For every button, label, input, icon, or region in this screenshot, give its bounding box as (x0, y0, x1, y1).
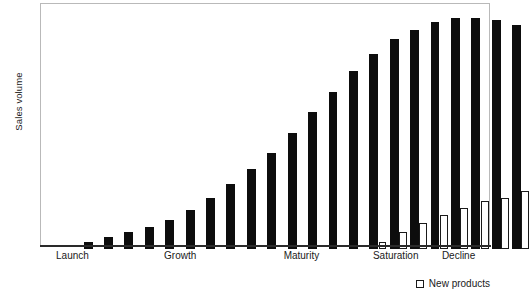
bar-sales-volume (267, 153, 276, 249)
stage-label-growth: Growth (164, 250, 196, 261)
bar-group (492, 8, 509, 249)
bar-sales-volume (369, 54, 378, 249)
bar-sales-volume (431, 22, 440, 249)
bar-group (431, 8, 448, 249)
bar-sales-volume (104, 237, 113, 249)
x-axis-line (40, 245, 491, 247)
bar-group (124, 8, 141, 249)
bar-sales-volume (186, 210, 195, 249)
legend-swatch-new-products-icon (416, 280, 424, 288)
bar-group (410, 8, 427, 249)
bar-new-products (460, 208, 468, 249)
bar-sales-volume (492, 20, 501, 249)
stage-label-maturity: Maturity (284, 250, 320, 261)
bar-group (247, 8, 264, 249)
bar-sales-volume (226, 184, 235, 249)
bar-group (165, 8, 182, 249)
bar-group (349, 8, 366, 249)
x-axis-stage-labels: LaunchGrowthMaturitySaturationDecline (0, 250, 499, 268)
bar-new-products (440, 215, 448, 249)
bar-group (288, 8, 305, 249)
bar-sales-volume (410, 30, 419, 249)
bar-group (512, 8, 529, 249)
bar-sales-volume (390, 39, 399, 249)
bar-group (145, 8, 162, 249)
bar-new-products (481, 201, 489, 249)
bar-group (451, 8, 468, 249)
legend-label-new-products: New products (429, 278, 490, 289)
bar-sales-volume (308, 112, 317, 249)
bar-new-products (501, 198, 509, 249)
bar-sales-volume (329, 92, 338, 249)
chart-legend: New products (416, 278, 490, 289)
bar-group (206, 8, 223, 249)
bar-group (226, 8, 243, 249)
bar-group (84, 8, 101, 249)
bar-sales-volume (349, 71, 358, 249)
bar-group (471, 8, 488, 249)
plot-area (40, 3, 490, 246)
bar-group (390, 8, 407, 249)
bar-group (104, 8, 121, 249)
bar-series-layer (82, 8, 531, 249)
bar-sales-volume (451, 18, 460, 249)
bar-group (308, 8, 325, 249)
stage-label-decline: Decline (442, 250, 475, 261)
bar-group (329, 8, 346, 249)
y-axis-title: Sales volume (13, 54, 24, 150)
bar-group (369, 8, 386, 249)
bar-sales-volume (247, 169, 256, 249)
stage-label-saturation: Saturation (373, 250, 419, 261)
bar-sales-volume (471, 18, 480, 249)
bar-new-products (521, 191, 529, 249)
bar-sales-volume (288, 133, 297, 249)
bar-sales-volume (512, 25, 521, 249)
bar-group (186, 8, 203, 249)
stage-label-launch: Launch (56, 250, 89, 261)
bar-group (267, 8, 284, 249)
bar-sales-volume (206, 198, 215, 249)
